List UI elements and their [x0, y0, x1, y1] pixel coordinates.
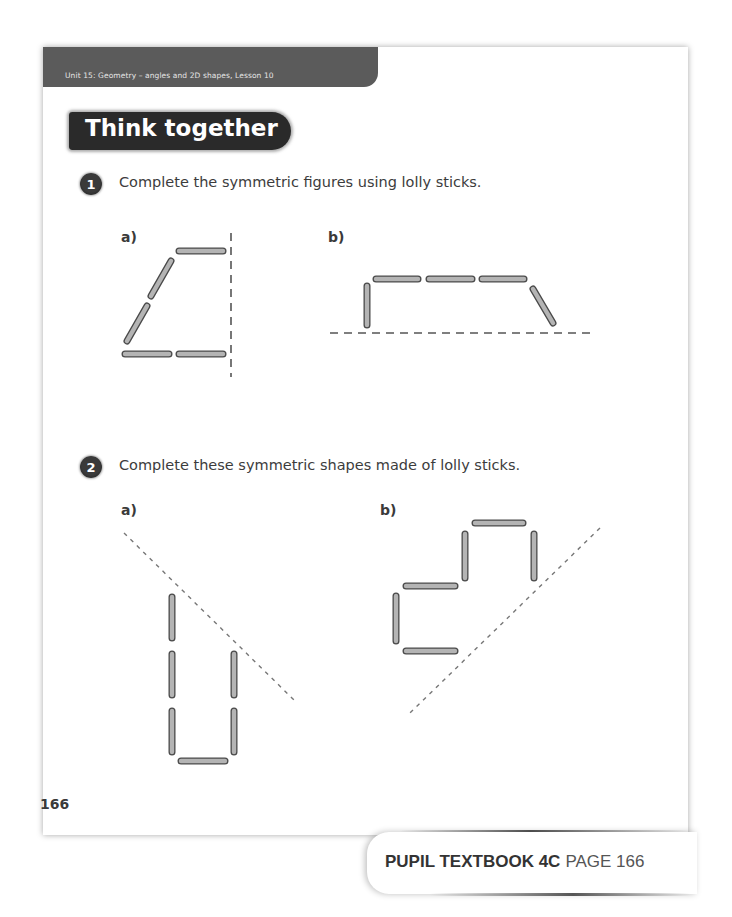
page-label: PAGE 166 — [565, 852, 644, 871]
lolly-stick — [533, 289, 553, 323]
figure-1b — [330, 279, 592, 333]
page-number: 166 — [40, 796, 69, 812]
figure-2a — [124, 533, 294, 761]
figure-2b — [396, 523, 600, 713]
figures-layer: .st { stroke: #4a4a4a; stroke-width: 7; … — [0, 0, 732, 917]
lolly-stick — [127, 306, 147, 341]
footer-label: PUPIL TEXTBOOK 4CPAGE 166 — [385, 852, 644, 872]
book-label: PUPIL TEXTBOOK 4C — [385, 852, 560, 871]
mirror-line-diagonal — [124, 533, 294, 700]
footer-decor-line — [430, 893, 690, 896]
footer-tab: PUPIL TEXTBOOK 4CPAGE 166 — [367, 832, 697, 894]
lolly-stick — [151, 261, 171, 296]
mirror-line-diagonal — [410, 528, 600, 713]
figure-1a — [125, 233, 231, 377]
